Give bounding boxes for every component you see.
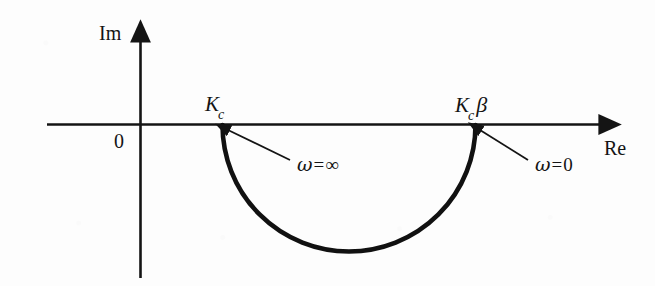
omega-zero-variable: ω <box>535 153 551 175</box>
left-intercept-symbol: K <box>205 92 219 116</box>
omega-infinity-variable: ω <box>297 153 313 175</box>
right-intercept-label: Kcβ <box>455 94 487 120</box>
real-axis-label: Re <box>604 138 626 158</box>
origin-label: 0 <box>114 131 124 151</box>
omega-zero-annotation: ω=0 <box>535 155 573 174</box>
omega-zero-value: 0 <box>563 154 573 175</box>
omega-zero-relation: = <box>552 154 563 175</box>
omega-infinity-relation: = <box>314 154 325 175</box>
left-intercept-subscript: c <box>218 107 224 122</box>
nyquist-curve <box>223 125 476 252</box>
omega-infinity-pointer <box>228 130 290 160</box>
imaginary-axis-label: Im <box>99 23 121 43</box>
right-intercept-symbol: K <box>455 93 469 117</box>
nyquist-plot-figure: Im Re 0 Kc Kcβ ω=∞ ω=0 <box>0 0 655 286</box>
right-intercept-subscript: c <box>468 108 474 123</box>
right-intercept-suffix: β <box>476 92 487 117</box>
omega-zero-pointer <box>480 130 528 160</box>
left-intercept-label: Kc <box>205 94 225 119</box>
omega-infinity-annotation: ω=∞ <box>297 155 339 174</box>
omega-infinity-value: ∞ <box>325 154 339 175</box>
